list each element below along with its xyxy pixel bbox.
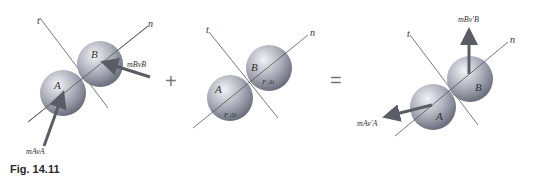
plus-operator: + <box>165 70 177 92</box>
t-label: t <box>407 28 410 39</box>
sphere-a-label: A <box>435 110 443 122</box>
n-label: n <box>310 27 315 38</box>
momentum-b-label: mBvB <box>127 60 146 69</box>
momentum-b-label: mBv'B <box>458 15 479 24</box>
t-label: t <box>206 24 209 35</box>
sphere-a-label: A <box>53 79 61 91</box>
impulse-b-label: F Δt <box>261 78 275 86</box>
diagram-after: t n A B mAv'A mBv'B <box>357 15 515 136</box>
n-label: n <box>148 18 153 29</box>
diagram-impulse: t n A B F Δt F Δt <box>193 24 315 128</box>
sphere-a <box>40 70 86 116</box>
momentum-a-label: mAvA <box>26 147 45 156</box>
sphere-b-label: B <box>475 81 482 93</box>
sphere-b-label: B <box>91 48 98 60</box>
momentum-a-label: mAv'A <box>357 119 377 128</box>
impulse-a-label: F Δt <box>223 111 237 119</box>
equals-operator: = <box>330 69 342 91</box>
sphere-a-label: A <box>214 83 222 95</box>
impact-diagram: t n A B mAvA mBvB + t n A B F Δt F Δt = … <box>0 0 548 184</box>
n-label: n <box>510 34 515 45</box>
sphere-b-label: B <box>251 61 258 73</box>
diagram-before: t n A B mAvA mBvB <box>26 15 153 156</box>
figure-caption: Fig. 14.11 <box>10 163 60 175</box>
t-label: t <box>37 15 40 26</box>
